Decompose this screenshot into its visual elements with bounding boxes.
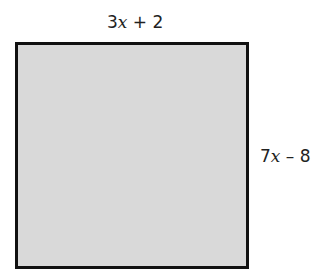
top-constant: + 2 — [127, 12, 163, 32]
top-variable: x — [118, 12, 128, 32]
side-variable: x — [271, 146, 281, 166]
side-coefficient: 7 — [260, 146, 271, 166]
square-shape — [15, 42, 249, 269]
top-side-length-label: 3x + 2 — [107, 12, 163, 32]
side-constant: – 8 — [280, 146, 310, 166]
right-side-length-label: 7x – 8 — [260, 146, 311, 166]
top-coefficient: 3 — [107, 12, 118, 32]
